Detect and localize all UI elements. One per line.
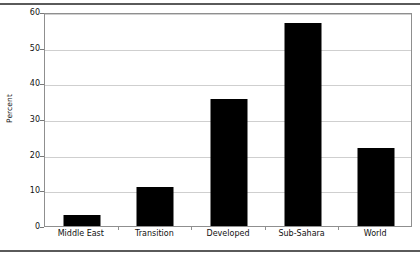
- top-divider-rule: [0, 3, 420, 5]
- bar[interactable]: [284, 23, 321, 226]
- y-axis-tick-label: 60: [14, 9, 40, 17]
- bar[interactable]: [358, 148, 395, 226]
- bar-slot: [192, 14, 266, 226]
- bar[interactable]: [63, 215, 100, 226]
- y-axis-tick-mark: [40, 13, 44, 14]
- x-axis-tick-label: Developed: [207, 230, 250, 238]
- x-axis-tick-labels: Middle EastTransitionDevelopedSub-Sahara…: [44, 230, 412, 244]
- x-axis-tick-mark: [265, 227, 266, 230]
- plot-area: [44, 13, 412, 227]
- bar[interactable]: [137, 187, 174, 226]
- y-axis-tick-mark: [40, 120, 44, 121]
- y-axis-tick-label: 30: [14, 116, 40, 124]
- y-axis-tick-label: 50: [14, 45, 40, 53]
- y-axis-tick-labels: 0102030405060: [10, 13, 40, 227]
- y-axis-tick-mark: [40, 227, 44, 228]
- bar[interactable]: [210, 99, 247, 226]
- bar-chart-figure: Percent 0102030405060 Middle EastTransit…: [0, 0, 420, 259]
- y-axis-tick-label: 0: [14, 223, 40, 231]
- y-axis-tick-label: 40: [14, 80, 40, 88]
- x-axis-tick-label: World: [364, 230, 387, 238]
- y-axis-tick-mark: [40, 191, 44, 192]
- bar-slot: [339, 14, 413, 226]
- x-axis-tick-label: Middle East: [58, 230, 104, 238]
- x-axis-tick-mark: [118, 227, 119, 230]
- y-axis-tick-label: 20: [14, 152, 40, 160]
- x-axis-tick-label: Transition: [135, 230, 174, 238]
- x-axis-tick-mark: [338, 227, 339, 230]
- y-axis-tick-label: 10: [14, 187, 40, 195]
- bar-slot: [266, 14, 340, 226]
- x-axis-tick-mark: [191, 227, 192, 230]
- y-axis-tick-mark: [40, 49, 44, 50]
- bar-slot: [119, 14, 193, 226]
- y-axis-tick-mark: [40, 84, 44, 85]
- bar-slot: [45, 14, 119, 226]
- y-axis-tick-mark: [40, 156, 44, 157]
- x-axis-tick-label: Sub-Sahara: [278, 230, 324, 238]
- bottom-divider-rule: [0, 250, 420, 252]
- bars-group: [45, 14, 411, 226]
